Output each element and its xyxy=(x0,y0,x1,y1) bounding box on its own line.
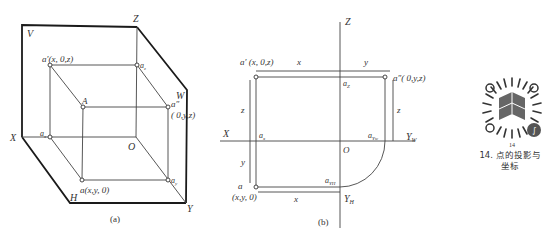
label-a-double-prime: a″ xyxy=(171,99,180,109)
label-a-z: aZ xyxy=(343,79,350,89)
dim-label-x-bottom: x xyxy=(293,194,298,204)
diagram-canvas: V W H Z X Y O a′(x, 0,z) A az a″ ( 0,y,z… xyxy=(0,0,550,240)
z-axis xyxy=(136,27,137,137)
dim-label-x-top: x xyxy=(296,57,301,67)
proj-line xyxy=(50,65,83,107)
label-x-axis: X xyxy=(222,128,230,139)
label-A: A xyxy=(81,96,88,106)
svg-text:∫: ∫ xyxy=(532,126,536,135)
label-z-axis: Z xyxy=(345,16,351,27)
label-x-axis: X xyxy=(9,132,17,143)
diagram-a: V W H Z X Y O a′(x, 0,z) A az a″ ( 0,y,z… xyxy=(9,13,195,224)
proj-line xyxy=(137,65,168,107)
v-plane-edge xyxy=(22,25,137,137)
point-a-prime xyxy=(254,75,258,79)
caption-b: (b) xyxy=(318,217,329,227)
label-v-plane: V xyxy=(27,28,35,39)
point-a xyxy=(254,185,258,189)
point-a-y xyxy=(166,178,170,182)
point-a-double-prime xyxy=(166,105,170,109)
label-a-double-prime: a″( 0,y,z) xyxy=(393,73,426,83)
dim-label-y-left: y xyxy=(240,157,245,167)
dim-label-z-left: z xyxy=(240,105,245,115)
label-z-axis: Z xyxy=(133,13,139,24)
qr-caption-line2: 坐标 xyxy=(470,161,550,172)
label-a-z: az xyxy=(140,61,146,71)
label-a-yw: aYw xyxy=(368,131,379,141)
label-a-prime: a′(x, 0,z) xyxy=(42,54,73,64)
mini-program-code-icon[interactable]: ∫ xyxy=(483,78,541,138)
label-a-x: ax xyxy=(40,129,47,139)
point-a-double-prime xyxy=(383,75,387,79)
label-a-double-prime-coords: ( 0,y,z) xyxy=(171,110,195,120)
label-a-yh: aYH xyxy=(325,176,336,186)
qr-caption: 14. 点的投影与 坐标 xyxy=(470,150,550,172)
label-a-x: ax xyxy=(259,131,266,141)
qr-caption-line1: 14. 点的投影与 xyxy=(470,150,550,161)
label-a: a xyxy=(238,181,243,191)
label-a-coords: (x,y, 0) xyxy=(232,192,257,202)
caption-a: (a) xyxy=(110,214,120,224)
label-origin: O xyxy=(343,145,350,155)
point-a xyxy=(80,178,84,182)
label-y-w-axis: YW xyxy=(406,131,418,143)
label-a-y: ay xyxy=(171,176,178,186)
label-origin: O xyxy=(128,141,135,152)
proj-line xyxy=(50,137,82,180)
dim-label-y-top: y xyxy=(363,57,368,67)
label-h-plane: H xyxy=(69,192,78,203)
label-a-prime: a′ (x, 0,z) xyxy=(240,57,273,67)
proj-line xyxy=(82,107,83,180)
qr-number: 14 xyxy=(509,142,515,148)
y-axis xyxy=(136,137,186,203)
label-y-axis: Y xyxy=(187,203,194,214)
label-a: a(x,y, 0) xyxy=(80,185,109,195)
dim-label-z-right: z xyxy=(396,105,401,115)
diagram-b: Z X O YW YH a′ (x, 0,z) a″( 0,y,z) aZ ax… xyxy=(220,16,426,228)
point-a-x xyxy=(48,135,52,139)
label-y-h-axis: YH xyxy=(344,193,355,205)
point-a-z xyxy=(135,63,139,67)
